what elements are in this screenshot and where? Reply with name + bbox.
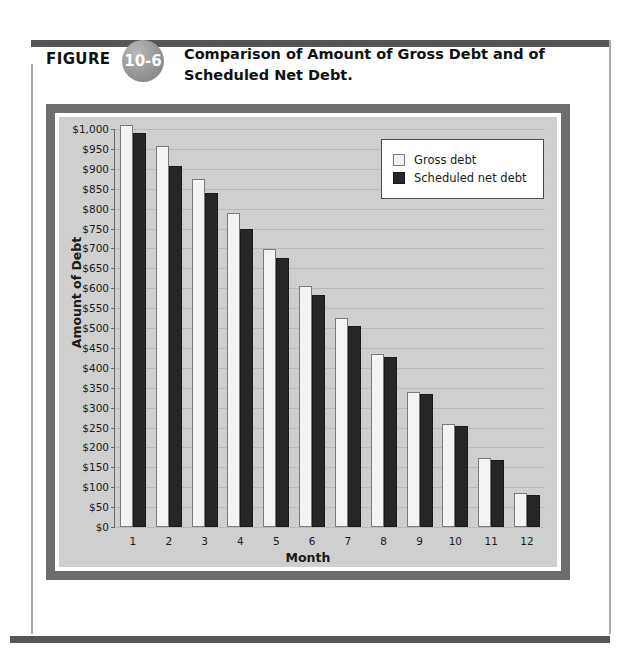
legend-item: Gross debt	[393, 153, 527, 167]
bar-scheduled-net-debt	[312, 295, 325, 527]
bar-scheduled-net-debt	[169, 166, 182, 527]
legend-swatch-scheduled-net-debt	[393, 172, 405, 184]
y-tick-label: $1,000	[72, 123, 109, 135]
x-tick-label: 9	[402, 535, 438, 547]
bar-scheduled-net-debt	[348, 326, 361, 527]
chart-plot-area: Amount of Debt Month $1,000$950$900$850$…	[59, 117, 557, 567]
bar-scheduled-net-debt	[276, 258, 289, 527]
bar-gross-debt	[407, 392, 420, 527]
y-tick-label: $900	[82, 163, 109, 175]
y-tick-label: $50	[89, 501, 109, 513]
y-tick-label: $750	[82, 223, 109, 235]
page-right-rule	[609, 40, 611, 634]
month-group: 5	[258, 129, 294, 527]
x-tick-label: 5	[258, 535, 294, 547]
month-group: 4	[222, 129, 258, 527]
y-tick-label: $300	[82, 402, 109, 414]
bar-gross-debt	[263, 249, 276, 527]
x-tick-label: 10	[437, 535, 473, 547]
y-tick-label: $400	[82, 362, 109, 374]
y-tick-label: $150	[82, 461, 109, 473]
bar-gross-debt	[371, 354, 384, 527]
y-axis-title: Amount of Debt	[69, 218, 84, 368]
y-tick-label: $650	[82, 262, 109, 274]
y-tick-label: $250	[82, 422, 109, 434]
figure-label: FIGURE	[46, 50, 111, 68]
figure-title: Comparison of Amount of Gross Debt and o…	[184, 44, 604, 86]
legend-label: Gross debt	[414, 153, 476, 167]
month-group: 6	[294, 129, 330, 527]
legend-label: Scheduled net debt	[414, 171, 527, 185]
x-axis-title: Month	[59, 550, 557, 565]
y-tick-label: $0	[96, 521, 109, 533]
y-tick-label: $950	[82, 143, 109, 155]
bar-scheduled-net-debt	[420, 394, 433, 527]
bar-scheduled-net-debt	[133, 133, 146, 527]
y-tick-label: $200	[82, 441, 109, 453]
figure-header: FIGURE 10-6 Comparison of Amount of Gros…	[46, 44, 606, 102]
chart-inner-border: Amount of Debt Month $1,000$950$900$850$…	[55, 113, 561, 571]
bar-scheduled-net-debt	[455, 426, 468, 527]
bar-gross-debt	[156, 146, 169, 527]
bar-scheduled-net-debt	[240, 229, 253, 528]
y-tick-label: $800	[82, 203, 109, 215]
month-group: 7	[330, 129, 366, 527]
y-tick-label: $100	[82, 481, 109, 493]
x-tick-label: 8	[366, 535, 402, 547]
bar-scheduled-net-debt	[205, 193, 218, 527]
x-tick-label: 12	[509, 535, 545, 547]
y-tick-label: $500	[82, 322, 109, 334]
bar-gross-debt	[120, 125, 133, 527]
chart-frame: Amount of Debt Month $1,000$950$900$850$…	[46, 104, 570, 580]
x-tick-label: 3	[187, 535, 223, 547]
legend-swatch-gross-debt	[393, 154, 405, 166]
figure-number-badge: 10-6	[122, 40, 164, 82]
month-group: 2	[151, 129, 187, 527]
x-tick-label: 4	[222, 535, 258, 547]
y-tick-label: $600	[82, 282, 109, 294]
figure-page: FIGURE 10-6 Comparison of Amount of Gros…	[0, 0, 642, 671]
bar-scheduled-net-debt	[384, 357, 397, 527]
y-tick-label: $350	[82, 382, 109, 394]
month-group: 1	[115, 129, 151, 527]
bar-scheduled-net-debt	[491, 460, 504, 527]
chart-legend: Gross debtScheduled net debt	[381, 139, 544, 199]
x-tick-label: 2	[151, 535, 187, 547]
bar-gross-debt	[514, 493, 527, 527]
y-tick-label: $700	[82, 242, 109, 254]
y-tick-mark	[111, 527, 115, 528]
x-tick-label: 1	[115, 535, 151, 547]
y-tick-label: $550	[82, 302, 109, 314]
page-bottom-rule	[10, 636, 610, 643]
bar-gross-debt	[227, 213, 240, 527]
bar-gross-debt	[299, 286, 312, 527]
bar-gross-debt	[442, 424, 455, 527]
bar-gross-debt	[192, 179, 205, 527]
legend-item: Scheduled net debt	[393, 171, 527, 185]
page-left-rule	[31, 64, 33, 634]
x-tick-label: 11	[473, 535, 509, 547]
bar-gross-debt	[335, 318, 348, 527]
bar-scheduled-net-debt	[527, 495, 540, 527]
gridline	[115, 527, 545, 528]
month-group: 3	[187, 129, 223, 527]
y-tick-label: $450	[82, 342, 109, 354]
x-tick-label: 6	[294, 535, 330, 547]
x-tick-label: 7	[330, 535, 366, 547]
bar-gross-debt	[478, 458, 491, 527]
y-tick-label: $850	[82, 183, 109, 195]
